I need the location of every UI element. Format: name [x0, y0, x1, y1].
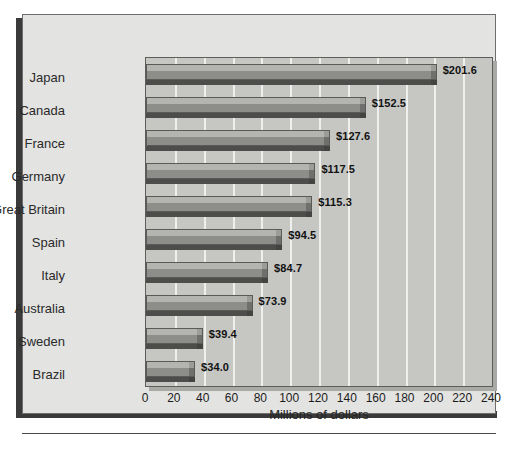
x-tick-200: 200 — [423, 391, 443, 405]
category-label-germany: Germany — [12, 169, 65, 184]
bar-japan[interactable] — [146, 64, 437, 85]
category-label-japan: Japan — [30, 70, 65, 85]
bar-end-cap — [262, 262, 268, 283]
bar-base-shadow — [146, 311, 253, 316]
bar-end-cap — [197, 328, 203, 349]
bar-top-face — [146, 97, 366, 104]
bar-top-face — [146, 196, 312, 203]
bar-canada[interactable] — [146, 97, 366, 118]
bar-top-face — [146, 64, 437, 71]
bar-top-face — [146, 328, 203, 335]
bar-value-label-canada: $152.5 — [372, 97, 406, 109]
bar-base-shadow — [146, 179, 315, 184]
bar-main-face — [146, 170, 315, 179]
bar-end-cap — [309, 163, 315, 184]
chart-figure-frame: JapanCanadaFranceGermanyGreat BritainSpa… — [22, 14, 496, 414]
category-label-spain: Spain — [32, 235, 65, 250]
bar-great-britain[interactable] — [146, 196, 312, 217]
bar-base-shadow — [146, 278, 268, 283]
bar-germany[interactable] — [146, 163, 315, 184]
x-tick-40: 40 — [196, 391, 209, 405]
x-tick-140: 140 — [337, 391, 357, 405]
bar-italy[interactable] — [146, 262, 268, 283]
x-tick-0: 0 — [142, 391, 149, 405]
bar-main-face — [146, 368, 195, 377]
bar-end-cap — [276, 229, 282, 250]
x-tick-60: 60 — [225, 391, 238, 405]
bar-top-face — [146, 130, 330, 137]
bar-end-cap — [360, 97, 366, 118]
bar-main-face — [146, 104, 366, 113]
bar-main-face — [146, 335, 203, 344]
bar-main-face — [146, 269, 268, 278]
bar-value-label-brazil: $34.0 — [201, 361, 229, 373]
bar-sweden[interactable] — [146, 328, 203, 349]
category-label-canada: Canada — [19, 103, 65, 118]
bar-base-shadow — [146, 146, 330, 151]
category-label-france: France — [25, 136, 65, 151]
bar-value-label-great-britain: $115.3 — [318, 196, 352, 208]
category-label-australia: Australia — [14, 301, 65, 316]
x-tick-180: 180 — [394, 391, 414, 405]
bar-base-shadow — [146, 80, 437, 85]
bar-main-face — [146, 236, 282, 245]
bar-australia[interactable] — [146, 295, 253, 316]
bar-end-cap — [189, 361, 195, 382]
category-label-great-britain: Great Britain — [0, 202, 65, 217]
bottom-horizontal-rule — [22, 433, 496, 434]
x-axis-title: Millions of dollars — [145, 407, 493, 422]
bar-base-shadow — [146, 113, 366, 118]
bar-spain[interactable] — [146, 229, 282, 250]
bar-value-label-sweden: $39.4 — [209, 328, 237, 340]
bar-value-label-germany: $117.5 — [321, 163, 355, 175]
category-label-brazil: Brazil — [32, 367, 65, 382]
bar-value-label-australia: $73.9 — [259, 295, 287, 307]
bar-value-label-japan: $201.6 — [443, 64, 477, 76]
bar-end-cap — [306, 196, 312, 217]
bar-main-face — [146, 71, 437, 80]
gridline-240 — [492, 58, 493, 386]
bar-value-label-france: $127.6 — [336, 130, 370, 142]
bar-value-label-italy: $84.7 — [274, 262, 302, 274]
bar-top-face — [146, 262, 268, 269]
bar-top-face — [146, 163, 315, 170]
bar-end-cap — [324, 130, 330, 151]
x-tick-20: 20 — [167, 391, 180, 405]
bar-top-face — [146, 295, 253, 302]
bar-top-face — [146, 229, 282, 236]
plot-area — [145, 57, 493, 387]
x-tick-160: 160 — [366, 391, 386, 405]
x-tick-80: 80 — [254, 391, 267, 405]
bar-base-shadow — [146, 245, 282, 250]
bars-layer — [146, 58, 492, 386]
x-tick-220: 220 — [452, 391, 472, 405]
bar-end-cap — [247, 295, 253, 316]
bar-end-cap — [431, 64, 437, 85]
x-tick-100: 100 — [279, 391, 299, 405]
bar-main-face — [146, 302, 253, 311]
bar-main-face — [146, 203, 312, 212]
x-tick-240: 240 — [481, 391, 501, 405]
category-label-sweden: Sweden — [18, 334, 65, 349]
x-tick-120: 120 — [308, 391, 328, 405]
category-label-italy: Italy — [41, 268, 65, 283]
bar-base-shadow — [146, 377, 195, 382]
bar-france[interactable] — [146, 130, 330, 151]
bar-main-face — [146, 137, 330, 146]
bar-top-face — [146, 361, 195, 368]
bar-brazil[interactable] — [146, 361, 195, 382]
bar-base-shadow — [146, 212, 312, 217]
bar-base-shadow — [146, 344, 203, 349]
bar-value-label-spain: $94.5 — [288, 229, 316, 241]
